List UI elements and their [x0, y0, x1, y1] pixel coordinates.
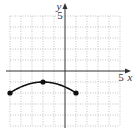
y-axis-arrow-icon — [63, 3, 68, 9]
coordinate-plane: 5 x 5 y — [0, 0, 137, 135]
data-point — [7, 90, 12, 95]
data-point — [40, 79, 45, 84]
x-axis-label: x — [127, 71, 133, 83]
x-tick-label: 5 — [118, 71, 124, 83]
y-axis-label: y — [56, 0, 62, 12]
data-point — [73, 90, 78, 95]
